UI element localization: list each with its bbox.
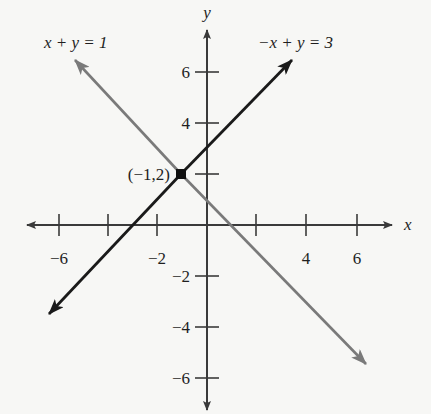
y-tick-label: 4 [182,114,191,133]
y-tick-label: −2 [172,267,190,286]
line-x-plus-y-eq-1 [75,60,366,364]
y-axis-label: y [201,3,211,22]
x-tick-label: −6 [50,249,68,268]
intersection-label: (−1,2) [128,165,170,184]
x-tick-label: 6 [353,249,362,268]
x-tick-label: 4 [302,249,311,268]
x-axis-label: x [403,215,412,234]
coordinate-plane: −6 −2 4 6 6 4 −2 −4 −6 y x (−1,2) x + y … [0,0,431,414]
equation-label-x-plus-y: x + y = 1 [43,33,108,52]
x-tick-label: −2 [148,249,166,268]
y-tick-label: −4 [172,318,191,337]
equation-label-neg-x-plus-y: −x + y = 3 [258,33,333,52]
intersection-point [176,169,186,179]
y-tick-label: 6 [182,63,191,82]
line-neg-x-plus-y-eq-3 [49,60,292,314]
y-tick-label: −6 [172,369,190,388]
